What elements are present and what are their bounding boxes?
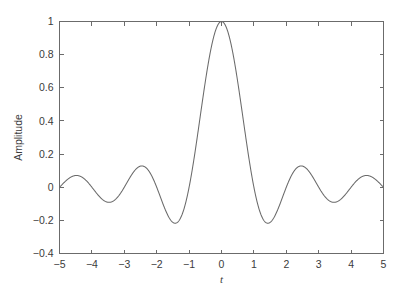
- tick-marks: [60, 22, 384, 254]
- sinc-plot: −5−4−3−2−1012345 −0.4−0.200.20.40.60.81 …: [0, 0, 408, 295]
- x-tick-label: 4: [348, 258, 354, 270]
- x-tick-label: 3: [316, 258, 322, 270]
- y-tick-labels: −0.4−0.200.20.40.60.81: [33, 15, 54, 259]
- y-tick-label: 0.6: [39, 81, 54, 93]
- x-tick-label: 0: [219, 258, 225, 270]
- y-tick-label: 1: [48, 15, 54, 27]
- x-tick-label: −2: [151, 258, 163, 270]
- x-tick-label: −1: [183, 258, 195, 270]
- y-tick-label: 0: [48, 181, 54, 193]
- y-tick-label: 0.4: [39, 115, 54, 127]
- x-tick-label: 5: [381, 258, 387, 270]
- sinc-curve: [60, 22, 384, 224]
- y-axis-label: Amplitude: [12, 114, 24, 161]
- figure-container: −5−4−3−2−1012345 −0.4−0.200.20.40.60.81 …: [0, 0, 408, 295]
- x-tick-label: −5: [54, 258, 66, 270]
- x-tick-label: −3: [118, 258, 130, 270]
- y-tick-label: −0.2: [33, 214, 54, 226]
- x-axis-label: t: [220, 273, 224, 285]
- y-tick-label: 0.8: [39, 48, 54, 60]
- axes-frame: [60, 22, 384, 254]
- x-tick-label: −4: [86, 258, 98, 270]
- x-tick-labels: −5−4−3−2−1012345: [54, 258, 387, 270]
- x-tick-label: 2: [283, 258, 289, 270]
- y-tick-label: 0.2: [39, 148, 54, 160]
- y-tick-label: −0.4: [33, 247, 54, 259]
- x-tick-label: 1: [251, 258, 257, 270]
